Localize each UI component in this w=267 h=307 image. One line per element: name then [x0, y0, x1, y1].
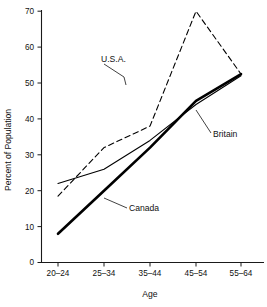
x-axis-title: Age [142, 289, 158, 299]
x-tick-label: 20–24 [47, 269, 70, 278]
y-tick-label: 30 [25, 151, 35, 160]
britain-leader-line [196, 110, 211, 133]
y-axis-ticks [38, 11, 42, 262]
series-line-usa [58, 11, 241, 196]
chart-container: 0 10 20 30 40 50 60 70 20–24 25–34 35–44… [0, 0, 267, 307]
y-tick-label: 40 [25, 115, 35, 124]
x-axis-tick-labels: 20–24 25–34 35–44 45–54 55–64 [47, 269, 253, 278]
usa-leader-line [104, 64, 126, 85]
y-tick-label: 50 [25, 79, 35, 88]
x-tick-label: 45–54 [185, 269, 208, 278]
y-tick-label: 20 [25, 187, 35, 196]
x-axis-ticks [58, 263, 241, 267]
x-tick-label: 25–34 [93, 269, 116, 278]
line-chart: 0 10 20 30 40 50 60 70 20–24 25–34 35–44… [0, 0, 267, 307]
y-tick-label: 0 [29, 258, 34, 267]
y-tick-label: 70 [25, 7, 35, 16]
x-tick-label: 35–44 [139, 269, 162, 278]
y-axis-tick-labels: 0 10 20 30 40 50 60 70 [25, 7, 35, 267]
series-label-canada: Canada [129, 203, 159, 213]
y-axis-title: Percent of Population [3, 109, 13, 191]
canada-leader-line [104, 198, 127, 208]
series-label-usa: U.S.A. [101, 54, 126, 64]
series-label-britain: Britain [213, 129, 238, 139]
x-tick-label: 55–64 [230, 269, 253, 278]
y-tick-label: 10 [25, 223, 35, 232]
y-tick-label: 60 [25, 43, 35, 52]
